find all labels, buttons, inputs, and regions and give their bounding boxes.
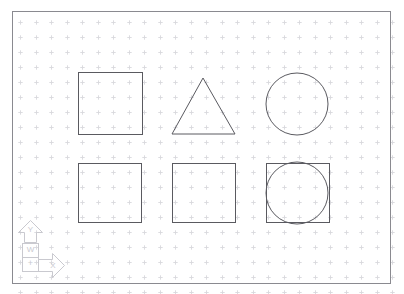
cad-drawing-canvas[interactable]: YW+X (0, 0, 404, 294)
canvas-background (0, 0, 404, 294)
ucs-plane-label: W (27, 245, 35, 254)
ucs-origin-label: + (28, 258, 33, 268)
cad-viewport[interactable]: YW+X (0, 0, 404, 294)
ucs-y-label: Y (28, 225, 34, 234)
ucs-x-label: X (50, 261, 56, 270)
